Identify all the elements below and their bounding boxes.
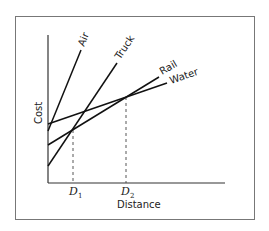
cost-distance-chart: Air Truck Rail Water Cost Distance D 1 D… bbox=[0, 0, 269, 231]
air-label: Air bbox=[76, 30, 92, 48]
y-axis-label: Cost bbox=[33, 102, 44, 124]
rail-line bbox=[48, 77, 159, 145]
truck-label: Truck bbox=[112, 33, 137, 62]
d2-tick-label: D bbox=[120, 185, 130, 198]
truck-line bbox=[48, 63, 117, 166]
x-axis-label: Distance bbox=[117, 199, 161, 210]
d1-tick-subscript: 1 bbox=[78, 192, 82, 200]
d1-tick-label: D bbox=[68, 185, 78, 198]
d2-tick-subscript: 2 bbox=[130, 192, 134, 200]
